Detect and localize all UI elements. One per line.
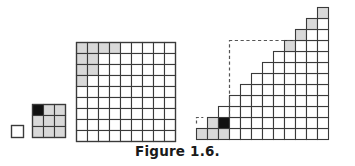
nine-by-nine-grid-panel: [77, 43, 176, 142]
grid-cell-empty: [143, 98, 154, 109]
staircase-cell-empty: [241, 107, 252, 118]
staircase-cell-empty: [296, 74, 307, 85]
grid-cell-empty: [154, 98, 165, 109]
grid-cell-empty: [143, 120, 154, 131]
grid-cell-empty: [110, 131, 121, 142]
grid-cell-empty: [121, 65, 132, 76]
grid-cell-empty: [154, 120, 165, 131]
staircase-cell-black: [219, 118, 230, 129]
grid-cell-empty: [110, 98, 121, 109]
staircase-cell-shaded: [285, 41, 296, 52]
grid-cell-shaded: [99, 43, 110, 54]
staircase-cell-empty: [263, 63, 274, 74]
grid-cell-shaded: [88, 65, 99, 76]
grid-cell-empty: [88, 109, 99, 120]
staircase-cell-empty: [307, 63, 318, 74]
staircase-cell-empty: [274, 74, 285, 85]
staircase-cell-empty: [318, 96, 329, 107]
staircase-cell-empty: [318, 118, 329, 129]
staircase-cell-empty: [296, 107, 307, 118]
grid-cell-empty: [143, 65, 154, 76]
staircase-cell-shaded: [318, 8, 329, 19]
grid-cell-empty: [121, 98, 132, 109]
staircase-cell-empty: [307, 96, 318, 107]
grid-cell-empty: [132, 43, 143, 54]
grid-cell-empty: [77, 120, 88, 131]
grid-cell-empty: [110, 87, 121, 98]
grid-cell-empty: [154, 54, 165, 65]
staircase-cell-empty: [318, 129, 329, 140]
staircase-cell-empty: [318, 63, 329, 74]
grid-cell-empty: [121, 131, 132, 142]
grid-cell-empty: [121, 87, 132, 98]
staircase-cell-empty: [318, 41, 329, 52]
staircase-cell-empty: [241, 129, 252, 140]
grid-cell-empty: [110, 76, 121, 87]
grid-cell-empty: [88, 131, 99, 142]
grid-cell-empty: [165, 76, 176, 87]
grid-cell-empty: [121, 54, 132, 65]
grid-cell-empty: [165, 131, 176, 142]
staircase-cell-empty: [274, 96, 285, 107]
grid-cell-shaded: [33, 127, 44, 138]
grid-cell-empty: [143, 43, 154, 54]
grid-cell-shaded: [55, 127, 66, 138]
staircase-cell-shaded: [208, 129, 219, 140]
grid-cell-empty: [154, 76, 165, 87]
staircase-cell-empty: [241, 96, 252, 107]
staircase-cell-empty: [252, 96, 263, 107]
staircase-cell-empty: [252, 74, 263, 85]
staircase-cell-empty: [285, 85, 296, 96]
grid-cell-shaded: [77, 54, 88, 65]
staircase-cell-empty: [252, 118, 263, 129]
grid-cell-empty: [88, 76, 99, 87]
grid-cell-empty: [165, 120, 176, 131]
staircase-cell-empty: [307, 107, 318, 118]
single-square-panel: [12, 126, 24, 138]
staircase-cell-empty: [274, 52, 285, 63]
grid-cell-empty: [77, 131, 88, 142]
staircase-cell-empty: [285, 63, 296, 74]
grid-cell-empty: [110, 54, 121, 65]
grid-cell-shaded: [44, 105, 55, 116]
staircase-cell-empty: [296, 85, 307, 96]
grid-cell-empty: [110, 109, 121, 120]
grid-cell-empty: [99, 109, 110, 120]
staircase-cell-empty: [296, 96, 307, 107]
staircase-cell-empty: [263, 129, 274, 140]
grid-cell-empty: [121, 43, 132, 54]
staircase-cell-empty: [285, 107, 296, 118]
grid-cell-empty: [132, 131, 143, 142]
staircase-cell-empty: [307, 129, 318, 140]
grid-cell-empty: [143, 109, 154, 120]
staircase-cell-empty: [252, 129, 263, 140]
grid-cell-shaded: [88, 54, 99, 65]
staircase-cell-empty: [296, 63, 307, 74]
grid-cell-empty: [77, 87, 88, 98]
grid-cell-empty: [132, 54, 143, 65]
grid-cell-empty: [132, 76, 143, 87]
staircase-cell-empty: [307, 85, 318, 96]
grid-cell-empty: [77, 109, 88, 120]
grid-cell-empty: [132, 87, 143, 98]
grid-cell-empty: [99, 131, 110, 142]
grid-cell-shaded: [77, 43, 88, 54]
staircase-cell-empty: [274, 107, 285, 118]
staircase-cell-shaded: [208, 118, 219, 129]
grid-cell-shaded: [110, 43, 121, 54]
grid-cell-empty: [154, 87, 165, 98]
staircase-cell-empty: [263, 107, 274, 118]
staircase-cell-empty: [296, 129, 307, 140]
grid-cell-empty: [165, 54, 176, 65]
grid-cell-empty: [132, 98, 143, 109]
grid-cell-empty: [165, 87, 176, 98]
grid-cell-empty: [165, 43, 176, 54]
grid-cell-empty: [132, 65, 143, 76]
staircase-cell-empty: [296, 118, 307, 129]
grid-cell-shaded: [44, 127, 55, 138]
staircase-cell-empty: [307, 74, 318, 85]
staircase-cell-empty: [230, 107, 241, 118]
grid-cell-empty: [88, 87, 99, 98]
grid-cell-empty: [88, 98, 99, 109]
staircase-cell-empty: [285, 74, 296, 85]
